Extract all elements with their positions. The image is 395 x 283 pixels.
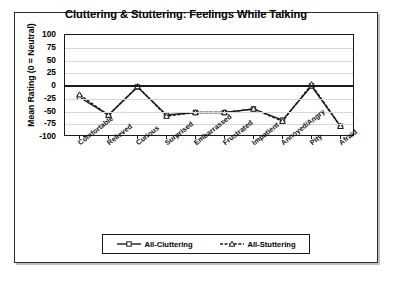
gridline	[65, 112, 353, 113]
data-point-marker	[127, 242, 131, 246]
y-axis-tick-label: -25	[44, 93, 56, 103]
y-axis-tick-label: -75	[44, 118, 56, 128]
y-axis-tick-label: -50	[44, 106, 56, 116]
x-axis-tick-labels: ComfortableRelievedCuriousSurprisedEmbar…	[64, 136, 354, 196]
data-point-marker	[77, 92, 83, 97]
legend-item: All-Cluttering	[116, 239, 192, 249]
zero-reference-line	[65, 85, 353, 87]
chart-title: Cluttering & Stuttering: Feelings While …	[26, 8, 346, 20]
y-axis-tick-label: 100	[42, 29, 56, 39]
gridline	[65, 73, 353, 74]
legend-item: All-Stuttering	[219, 239, 295, 249]
legend-square-marker-icon	[116, 239, 142, 249]
gridline	[65, 48, 353, 49]
gridline	[65, 99, 353, 100]
y-axis-tick-label: 50	[47, 55, 56, 65]
chart-figure: Cluttering & Stuttering: Feelings While …	[0, 0, 395, 283]
chart-legend: All-ClutteringAll-Stuttering	[102, 234, 310, 254]
y-axis-tick-label: 0	[51, 80, 56, 90]
y-axis-tick-labels: 1007550250-25-50-75-100	[22, 34, 60, 136]
y-axis-tick-label: -100	[39, 131, 56, 141]
gridline	[65, 61, 353, 62]
y-axis-tick-label: 75	[47, 42, 56, 52]
data-point-marker	[230, 241, 236, 246]
legend-label: All-Stuttering	[247, 240, 295, 249]
series-line	[80, 86, 341, 126]
y-axis-tick-label: 25	[47, 67, 56, 77]
legend-triangle-marker-icon	[219, 239, 245, 249]
legend-label: All-Cluttering	[144, 240, 192, 249]
